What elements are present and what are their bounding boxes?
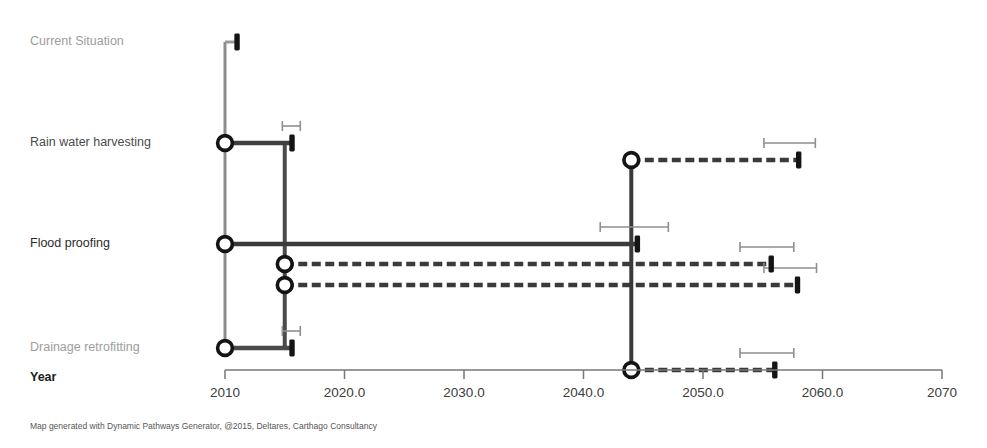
pathway-end-marker-flood-proofing-branch-2	[795, 277, 800, 294]
row-label-current-situation: Current Situation	[30, 34, 124, 48]
uncertainty-whiskers-group	[282, 121, 816, 358]
pathway-node-flood-proofing-main	[218, 237, 233, 252]
pathway-end-marker-rain-water-harvesting-b	[796, 152, 801, 169]
pathways-figure: 20102020.02030.02040.02050.02060.02070 C…	[0, 0, 987, 448]
row-label-rain-water-harvesting: Rain water harvesting	[30, 135, 151, 149]
pathway-end-marker-rain-water-harvesting-a	[289, 135, 294, 152]
whisker-drainage-retrofitting-b	[740, 348, 794, 358]
pathway-nodes-group	[218, 34, 802, 379]
pathway-end-marker-flood-proofing-branch-1	[769, 256, 774, 273]
whisker-rain-water-harvesting-a	[282, 121, 300, 131]
pathway-node-drainage-retrofitting-a	[218, 341, 233, 356]
axis-tick-label-2070: 2070	[927, 385, 957, 400]
whisker-rain-water-harvesting-b	[764, 138, 815, 148]
node-ring	[218, 136, 233, 151]
year-axis-group: 20102020.02030.02040.02050.02060.02070	[210, 370, 957, 400]
x-axis: 20102020.02030.02040.02050.02060.02070	[210, 370, 957, 400]
pathways-canvas: 20102020.02030.02040.02050.02060.02070 C…	[0, 0, 987, 448]
pathway-end-marker-flood-proofing-main	[635, 236, 640, 253]
pathway-node-rain-water-harvesting-b	[624, 153, 639, 168]
whisker-flood-proofing-branch-1	[740, 242, 794, 252]
footer-caption-text: Map generated with Dynamic Pathways Gene…	[30, 421, 377, 431]
axis-tick-label-2010: 2010	[210, 385, 240, 400]
node-ring	[218, 341, 233, 356]
axis-tick-label-2020: 2020.0	[324, 385, 365, 400]
axis-tick-label-2050: 2050.0	[682, 385, 723, 400]
node-ring	[277, 278, 292, 293]
pathway-node-flood-proofing-branch-2	[277, 278, 292, 293]
axis-tick-label-2060: 2060.0	[802, 385, 843, 400]
node-ring	[277, 257, 292, 272]
row-label-flood-proofing: Flood proofing	[30, 236, 110, 250]
axis-tick-label-2040: 2040.0	[563, 385, 604, 400]
pathway-end-marker-drainage-retrofitting-a	[289, 340, 294, 357]
whisker-flood-proofing-main	[600, 222, 668, 232]
node-ring	[218, 237, 233, 252]
pathway-node-rain-water-harvesting-a	[218, 136, 233, 151]
axis-tick-label-2030: 2030.0	[443, 385, 484, 400]
transfer-lines-group	[225, 42, 631, 370]
pathway-lines-group	[225, 42, 799, 370]
row-label-drainage-retrofitting: Drainage retrofitting	[30, 340, 140, 354]
pathway-end-marker-current-situation	[234, 34, 239, 51]
row-labels-group: Current SituationRain water harvestingFl…	[30, 34, 151, 384]
row-label-year: Year	[30, 370, 57, 384]
pathway-node-flood-proofing-branch-1	[277, 257, 292, 272]
footer-caption: Map generated with Dynamic Pathways Gene…	[30, 415, 377, 433]
node-ring	[624, 153, 639, 168]
